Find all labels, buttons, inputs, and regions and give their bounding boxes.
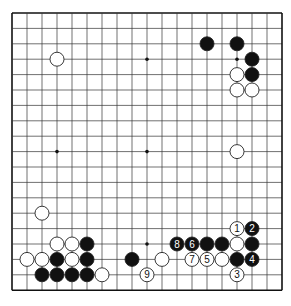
white-stone [35, 206, 49, 220]
white-stone [50, 237, 64, 251]
white-stone [35, 252, 49, 266]
black-stone [80, 268, 94, 282]
white-stone [230, 145, 244, 159]
move-number-label: 3 [234, 269, 240, 280]
black-stone [215, 237, 229, 251]
star-point [55, 150, 59, 154]
black-stone [80, 237, 94, 251]
black-stone [50, 268, 64, 282]
black-stone [65, 268, 79, 282]
black-stone [245, 52, 259, 66]
move-number-label: 8 [174, 239, 180, 250]
star-point [145, 242, 149, 246]
black-stone [50, 252, 64, 266]
black-stone [245, 68, 259, 82]
white-stone [155, 252, 169, 266]
move-number-label: 5 [204, 254, 210, 265]
white-stone [50, 52, 64, 66]
black-stone [200, 237, 214, 251]
white-stone [95, 268, 109, 282]
white-stone [20, 252, 34, 266]
white-stone [230, 68, 244, 82]
white-stone [245, 83, 259, 97]
star-point [145, 150, 149, 154]
black-stone [35, 268, 49, 282]
black-stone [125, 252, 139, 266]
move-number-label: 6 [189, 239, 195, 250]
black-stone [230, 37, 244, 51]
white-stone [215, 252, 229, 266]
move-number-label: 4 [249, 254, 255, 265]
move-number-label: 1 [234, 223, 240, 234]
move-number-label: 7 [189, 254, 195, 265]
move-number-label: 9 [144, 269, 150, 280]
star-point [145, 57, 149, 61]
black-stone [230, 252, 244, 266]
black-stone [200, 37, 214, 51]
white-stone [65, 252, 79, 266]
white-stone [230, 237, 244, 251]
white-stone [230, 83, 244, 97]
black-stone [245, 237, 259, 251]
star-point [235, 57, 239, 61]
white-stone [65, 237, 79, 251]
go-board: 123456789 [0, 0, 291, 306]
move-number-label: 2 [249, 223, 255, 234]
black-stone [80, 252, 94, 266]
